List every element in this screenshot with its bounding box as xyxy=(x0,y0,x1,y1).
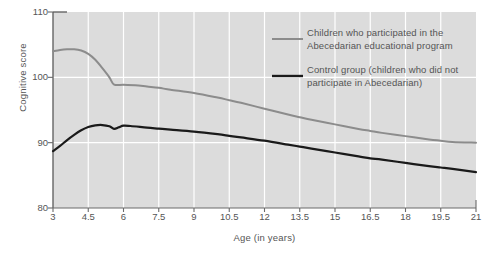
y-tick-label: 100 xyxy=(14,71,48,82)
x-tick-label: 19.5 xyxy=(421,211,461,222)
x-tick-label: 12 xyxy=(245,211,285,222)
legend-label-control: Control group (children who did not part… xyxy=(307,64,458,89)
x-tick-label: 6 xyxy=(104,211,144,222)
x-tick-label: 16.5 xyxy=(350,211,390,222)
x-tick-label: 21 xyxy=(456,211,483,222)
y-tick-label: 110 xyxy=(14,6,48,17)
x-tick-label: 3 xyxy=(33,211,73,222)
x-axis-title: Age (in years) xyxy=(53,232,476,243)
x-tick-label: 13.5 xyxy=(280,211,320,222)
y-tick-label: 90 xyxy=(14,137,48,148)
x-tick-label: 7.5 xyxy=(139,211,179,222)
cognitive-score-line-chart: Cognitive score 8090100110 34.567.5910.5… xyxy=(0,0,483,255)
legend-label-abecedarian: Children who participated in the Abeceda… xyxy=(307,27,453,52)
x-tick-label: 9 xyxy=(174,211,214,222)
x-tick-label: 15 xyxy=(315,211,355,222)
x-tick-label: 4.5 xyxy=(68,211,108,222)
x-tick-label: 10.5 xyxy=(209,211,249,222)
x-tick-label: 18 xyxy=(386,211,426,222)
